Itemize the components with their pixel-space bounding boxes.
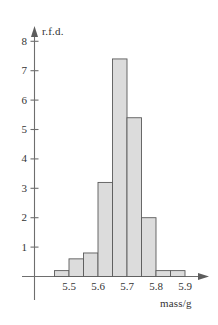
bar-0 [55,271,70,277]
x-axis-title: mass/g [160,298,192,309]
bar-8 [171,271,186,277]
bar-7 [156,271,171,277]
y-axis [31,26,38,300]
y-tick-label-8: 8 [13,36,27,47]
x-tick-label-5-8: 5.8 [141,281,171,292]
x-tick-label-5-9: 5.9 [170,281,200,292]
x-tick-label-5-6: 5.6 [83,281,113,292]
y-tick-label-5: 5 [13,124,27,135]
bar-4 [113,59,128,277]
x-tick-label-5-7: 5.7 [112,281,142,292]
histogram-chart: r.f.d. mass/g 1 2 3 4 5 6 7 8 5.5 5.6 5.… [0,0,218,325]
bar-6 [142,218,157,277]
histogram-bars [55,59,186,277]
bar-5 [127,118,142,277]
bar-1 [69,259,84,277]
x-axis-arrow-icon [198,273,209,280]
bar-2 [84,253,99,277]
y-tick-label-4: 4 [13,153,27,164]
bar-3 [98,182,113,276]
y-tick-label-3: 3 [13,183,27,194]
y-tick-label-7: 7 [13,65,27,76]
chart-canvas [0,0,218,325]
y-axis-title: r.f.d. [42,26,64,37]
y-tick-label-1: 1 [13,242,27,253]
y-tick-label-6: 6 [13,95,27,106]
x-tick-label-5-5: 5.5 [54,281,84,292]
y-axis-arrow-icon [31,26,38,37]
y-tick-label-2: 2 [13,212,27,223]
